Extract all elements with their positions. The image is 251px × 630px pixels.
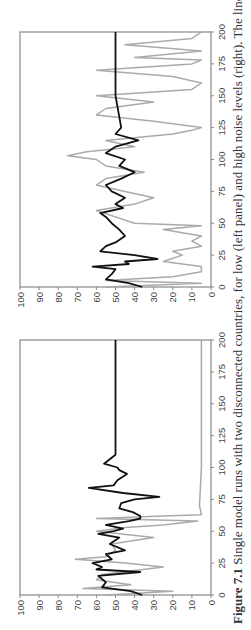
y-tick-label: 90 <box>34 600 45 611</box>
y-tick-label: 60 <box>91 600 102 611</box>
x-tick-label: 150 <box>216 396 227 412</box>
figure-caption: Figure 7.1 Single model runs with two di… <box>230 0 246 624</box>
y-tick-label: 100 <box>15 292 26 308</box>
y-tick-label: 30 <box>148 600 159 611</box>
left-panel-low-noise: 0102030405060708090100025507510012515017… <box>0 330 230 630</box>
x-tick-label: 175 <box>216 56 227 72</box>
x-tick-label: 0 <box>216 592 227 597</box>
figure-label: Figure 7.1 <box>230 568 245 624</box>
y-tick-label: 0 <box>206 600 217 605</box>
x-tick-label: 0 <box>216 284 227 289</box>
y-tick-label: 70 <box>72 292 83 303</box>
y-tick-label: 20 <box>167 292 178 303</box>
x-tick-label: 100 <box>216 152 227 168</box>
x-tick-label: 50 <box>216 526 227 537</box>
chart-right: 0102030405060708090100025507510012515017… <box>0 22 230 322</box>
x-tick-label: 100 <box>216 460 227 476</box>
x-tick-label: 125 <box>216 428 227 444</box>
chart-left: 0102030405060708090100025507510012515017… <box>0 330 230 630</box>
series-country-b-line <box>68 32 202 287</box>
x-tick-label: 50 <box>216 218 227 229</box>
y-tick-label: 40 <box>129 292 140 303</box>
y-tick-label: 30 <box>148 292 159 303</box>
y-tick-label: 70 <box>72 600 83 611</box>
y-tick-label: 100 <box>15 600 26 616</box>
y-tick-label: 50 <box>110 600 121 611</box>
x-tick-label: 150 <box>216 88 227 104</box>
figure-page: 0102030405060708090100025507510012515017… <box>0 0 251 630</box>
y-tick-label: 80 <box>53 600 64 611</box>
x-tick-label: 75 <box>216 494 227 505</box>
figure-caption-text: Single model runs with two disconnected … <box>230 0 245 565</box>
x-tick-label: 25 <box>216 250 227 261</box>
y-tick-label: 10 <box>186 600 197 611</box>
x-tick-label: 75 <box>216 186 227 197</box>
y-tick-label: 0 <box>206 292 217 297</box>
y-tick-label: 40 <box>129 600 140 611</box>
y-tick-label: 90 <box>34 292 45 303</box>
y-tick-label: 60 <box>91 292 102 303</box>
x-tick-label: 175 <box>216 364 227 380</box>
x-tick-label: 200 <box>216 24 227 40</box>
y-tick-label: 50 <box>110 292 121 303</box>
series-country-b-line <box>75 340 201 595</box>
right-panel-high-noise: 0102030405060708090100025507510012515017… <box>0 22 230 322</box>
x-tick-label: 25 <box>216 558 227 569</box>
y-tick-label: 10 <box>186 292 197 303</box>
x-tick-label: 125 <box>216 120 227 136</box>
y-tick-label: 20 <box>167 600 178 611</box>
x-tick-label: 200 <box>216 332 227 348</box>
y-tick-label: 80 <box>53 292 64 303</box>
